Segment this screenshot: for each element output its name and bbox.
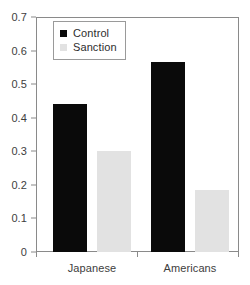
legend-swatch-icon bbox=[60, 30, 67, 37]
legend-entry-control: Control bbox=[60, 26, 117, 40]
bar-chart: 0.7 0.6 0.5 0.4 0.3 0.2 0.1 0 Japanese A… bbox=[0, 0, 250, 285]
x-tick-mark bbox=[238, 252, 239, 257]
x-tick-label-americans: Americans bbox=[164, 262, 217, 274]
x-tick-mark bbox=[36, 252, 37, 257]
x-tick-label-japanese: Japanese bbox=[68, 262, 117, 274]
legend-entry-sanction: Sanction bbox=[60, 40, 117, 54]
legend-swatch-icon bbox=[60, 44, 67, 51]
legend: Control Sanction bbox=[53, 21, 126, 60]
x-tick-mark bbox=[137, 252, 138, 257]
legend-label: Sanction bbox=[73, 40, 117, 54]
legend-label: Control bbox=[73, 26, 109, 40]
